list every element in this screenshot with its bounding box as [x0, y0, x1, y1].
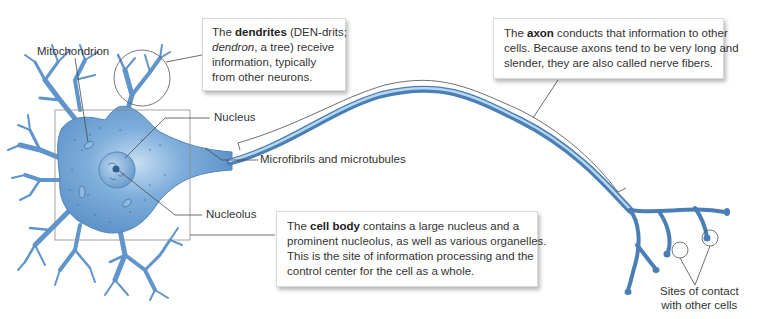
cell-body-line-1: The cell body contains a large nucleus a…	[287, 219, 527, 234]
dendrites-line-3: information, typically	[212, 55, 336, 70]
axon-terminals	[628, 208, 725, 290]
contact-site-circle-1	[672, 242, 688, 258]
term-cell-body: cell body	[310, 220, 360, 232]
dendrites-line-2: dendron, a tree) receive	[212, 40, 336, 55]
label-nucleolus: Nucleolus	[206, 209, 257, 221]
callout-axon: The axon conducts that information to ot…	[493, 18, 724, 79]
label-mitochondrion: Mitochondrion	[37, 46, 109, 58]
cell-body-line-4: control center for the cell as a whole.	[287, 264, 527, 279]
term-dendrites: dendrites	[235, 26, 287, 38]
cell-body-line-3: This is the site of information processi…	[287, 249, 527, 264]
dendrites-line-1: The dendrites (DEN-drits;	[212, 25, 336, 40]
sites-line-1: Sites of contact	[660, 284, 739, 298]
callout-dendrites: The dendrites (DEN-drits; dendron, a tre…	[202, 18, 346, 91]
axon-line-1: The axon conducts that information to ot…	[504, 26, 713, 41]
cell-body-line-2: prominent nucleolus, as well as various …	[287, 234, 527, 249]
axon-line-3: slender, they are also called nerve fibe…	[504, 56, 713, 71]
term-axon: axon	[527, 27, 554, 39]
dendrites-line-4: from other neurons.	[212, 70, 336, 85]
label-nucleus: Nucleus	[214, 112, 256, 124]
dendrite-highlight-circle	[114, 50, 170, 106]
callout-cell-body: The cell body contains a large nucleus a…	[276, 211, 538, 287]
label-microfibrils: Microfibrils and microtubules	[260, 154, 406, 166]
sites-line-2: with other cells	[660, 298, 739, 312]
axon-line-2: cells. Because axons tend to be very lon…	[504, 41, 713, 56]
label-sites-of-contact: Sites of contact with other cells	[660, 284, 739, 312]
nucleolus	[113, 166, 120, 173]
